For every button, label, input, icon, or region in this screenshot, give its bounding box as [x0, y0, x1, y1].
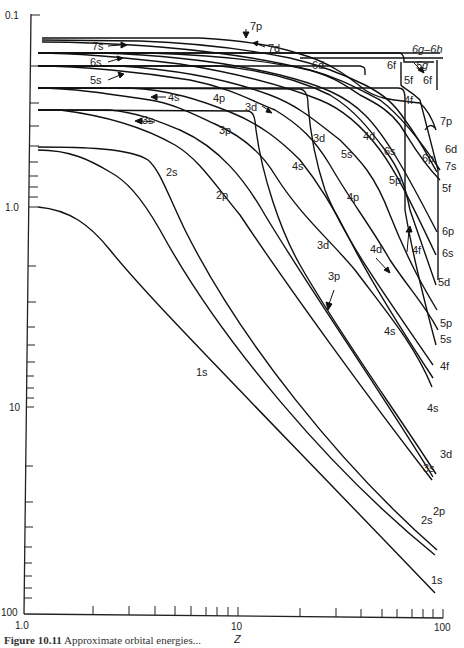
label-5p-right: 5p: [440, 317, 452, 329]
label-4p: 4p: [213, 92, 225, 104]
x-tick-1.0: 1.0: [15, 620, 29, 631]
label-6f: 6f: [387, 59, 397, 71]
label-5s-right: 5s: [440, 333, 452, 345]
label-6s-right: 6s: [442, 247, 454, 259]
y-tick-0.1: 0.1: [5, 10, 19, 21]
label-6d: 6d: [312, 59, 324, 71]
label-6p-mid: 6p: [422, 152, 434, 164]
label-3d: 3d: [245, 101, 257, 113]
label-2s: 2s: [166, 166, 178, 178]
label-7s-right: 7s: [445, 160, 457, 172]
curve-1s: [38, 207, 435, 593]
label-7p-top: 7p: [250, 20, 262, 32]
label-4p-mid: 4p: [347, 191, 359, 203]
label-1s: 1s: [196, 366, 208, 378]
label-5s: 5s: [90, 74, 102, 86]
label-6s: 6s: [90, 56, 102, 68]
label-4f-mid: 4f: [412, 244, 422, 256]
label-4s-low: 4s: [384, 325, 396, 337]
label-7d: 7d: [268, 42, 280, 54]
label-3p-low: 3p: [328, 270, 340, 282]
figure-caption: Figure 10.11 Approximate orbital energie…: [4, 634, 201, 646]
label-6g-6h: 6g–6h: [412, 43, 443, 55]
x-tick-10: 10: [231, 621, 243, 632]
label-3s: 3s: [142, 114, 154, 126]
label-5f: 5f: [404, 74, 414, 86]
label-7s: 7s: [92, 40, 104, 52]
axes: [24, 14, 443, 618]
curve-5p: [38, 66, 437, 310]
label-7p-right: 7p: [440, 115, 452, 127]
label-5g: 5g: [416, 59, 429, 71]
label-4d-mid: 4d: [363, 130, 375, 142]
curve-4f: [38, 88, 436, 345]
caption-text: Approximate orbital energies...: [64, 634, 201, 646]
label-5s-mid: 5s: [341, 148, 353, 160]
label-4s: 4s: [168, 91, 180, 103]
curve-labels: 7p 7d 7s 6s 5s 4s 4p 3d 3s 3p 2s 2p 1s 6…: [90, 20, 457, 586]
label-5p-mid: 5p: [389, 174, 401, 186]
label-3d-mid: 3d: [313, 132, 325, 144]
label-4f: 4f: [404, 94, 414, 106]
label-5f-right: 5f: [442, 182, 452, 194]
label-6s-mid: 6s: [384, 145, 396, 157]
label-4s-right: 4s: [427, 402, 439, 414]
label-3s-right: 3s: [423, 462, 435, 474]
label-3p: 3p: [219, 124, 231, 136]
label-3d-low: 3d: [317, 239, 329, 251]
orbital-energy-chart: 0.1 1.0 10 100 1.0 10 100 Z: [0, 0, 464, 648]
x-axis-label: Z: [233, 633, 242, 645]
x-tick-100: 100: [434, 622, 451, 633]
label-1s-right: 1s: [431, 574, 443, 586]
series-curves: [38, 38, 443, 593]
y-tick-1.0: 1.0: [5, 202, 19, 213]
label-4d-low: 4d: [370, 243, 382, 255]
label-6p-right: 6p: [442, 225, 454, 237]
label-2s-right: 2s: [421, 514, 433, 526]
y-tick-100: 100: [1, 607, 18, 618]
figure-number: Figure 10.11: [4, 634, 62, 646]
y-tick-10: 10: [9, 402, 21, 413]
label-5d-right: 5d: [438, 276, 450, 288]
label-2p-right: 2p: [433, 505, 445, 517]
label-6f-right: 6f: [423, 74, 433, 86]
label-4f-right: 4f: [440, 360, 450, 372]
label-4s-mid: 4s: [292, 160, 304, 172]
label-6d-right: 6d: [445, 143, 457, 155]
label-3d-right: 3d: [440, 448, 452, 460]
y-axis-ticks: [24, 15, 40, 598]
label-2p: 2p: [216, 189, 228, 201]
